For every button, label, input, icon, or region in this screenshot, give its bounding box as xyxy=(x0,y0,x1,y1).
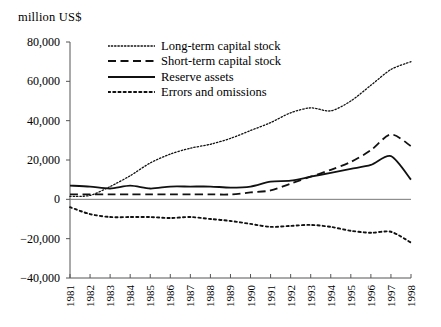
legend-swatch-line xyxy=(108,55,155,67)
legend-item: Short-term capital stock xyxy=(108,54,281,70)
series-line-3 xyxy=(70,156,411,189)
legend-item: Errors and omissions xyxy=(108,85,281,101)
legend-item-label: Long-term capital stock xyxy=(161,40,280,53)
series-line-4 xyxy=(70,207,411,242)
legend-swatch-line xyxy=(108,71,155,83)
legend-swatch-line xyxy=(108,40,155,52)
chart-legend: Long-term capital stockShort-term capita… xyxy=(108,38,281,100)
legend-item-label: Short-term capital stock xyxy=(161,55,281,68)
legend-swatch-line xyxy=(108,86,155,98)
chart-container: million US$ 80,00060,00040,00020,0000−20… xyxy=(0,0,441,327)
legend-item: Long-term capital stock xyxy=(108,38,281,54)
series-line-2 xyxy=(70,134,411,194)
legend-item: Reserve assets xyxy=(108,69,281,85)
legend-item-label: Reserve assets xyxy=(161,71,234,84)
legend-item-label: Errors and omissions xyxy=(161,86,267,99)
